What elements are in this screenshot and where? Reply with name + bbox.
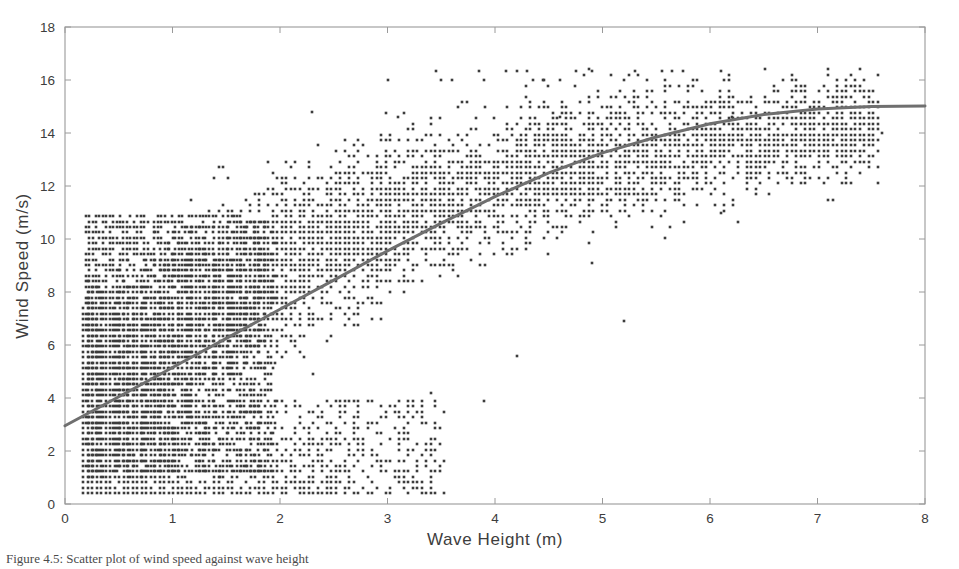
y-tick-label: 6 — [47, 338, 55, 353]
figure-container: 012345678024681012141618 Wave Height (m)… — [0, 0, 959, 569]
x-axis-title: Wave Height (m) — [427, 530, 563, 549]
y-tick-label: 18 — [40, 20, 55, 35]
plot-background — [0, 0, 959, 569]
y-tick-label: 16 — [40, 73, 55, 88]
x-tick-label: 1 — [169, 511, 177, 526]
scatter-plot: 012345678024681012141618 Wave Height (m)… — [0, 0, 959, 569]
x-tick-label: 3 — [384, 511, 392, 526]
x-tick-label: 8 — [921, 511, 929, 526]
y-tick-label: 2 — [47, 444, 55, 459]
y-axis-title: Wind Speed (m/s) — [13, 193, 32, 339]
x-tick-label: 2 — [276, 511, 284, 526]
x-tick-label: 0 — [61, 511, 69, 526]
x-tick-label: 4 — [491, 511, 499, 526]
y-tick-label: 12 — [40, 179, 55, 194]
y-tick-label: 10 — [40, 232, 55, 247]
x-tick-label: 7 — [814, 511, 822, 526]
y-tick-label: 8 — [47, 285, 55, 300]
figure-caption: Figure 4.5: Scatter plot of wind speed a… — [6, 551, 706, 566]
y-tick-label: 0 — [47, 497, 55, 512]
y-tick-label: 14 — [40, 126, 56, 141]
x-tick-label: 5 — [599, 511, 607, 526]
x-tick-label: 6 — [706, 511, 714, 526]
y-tick-label: 4 — [47, 391, 55, 406]
